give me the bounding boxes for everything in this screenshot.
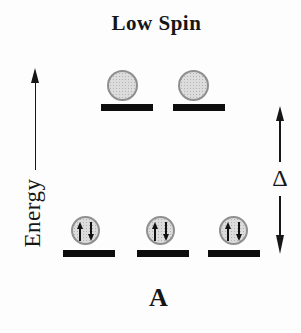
spin-down-arrow-icon	[87, 222, 95, 241]
spin-up-arrow-icon	[151, 222, 159, 241]
orbital-empty	[107, 70, 138, 101]
gap-delta-label: Δ	[265, 165, 295, 191]
orbital-paired	[146, 216, 175, 245]
orbital-empty	[178, 70, 209, 101]
spin-down-arrow-icon	[162, 222, 170, 241]
figure-bottom-label: A	[0, 283, 301, 313]
energy-level-bar	[137, 250, 189, 257]
low-spin-energy-diagram: Low Spin Energy Δ	[0, 0, 301, 333]
gap-lower-line	[279, 196, 281, 236]
spin-up-arrow-icon	[224, 222, 232, 241]
spin-up-arrow-icon	[76, 222, 84, 241]
energy-axis-line	[35, 81, 37, 170]
gap-upper-line	[279, 119, 281, 162]
orbital-paired	[219, 216, 248, 245]
orbital-paired	[71, 216, 100, 245]
energy-level-bar	[63, 250, 115, 257]
energy-level-bar	[101, 104, 153, 111]
spin-down-arrow-icon	[235, 222, 243, 241]
energy-level-bar	[208, 250, 260, 257]
figure-title: Low Spin	[0, 11, 301, 36]
energy-level-bar	[173, 104, 225, 111]
energy-axis-label: Energy	[21, 169, 45, 257]
gap-down-arrow-icon	[276, 235, 284, 254]
